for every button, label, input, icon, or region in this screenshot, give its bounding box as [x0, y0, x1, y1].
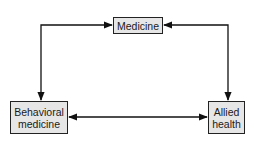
edge-medicine-allied	[164, 25, 228, 100]
node-label: Medicine	[117, 20, 159, 32]
node-label: Allied health	[212, 106, 241, 130]
node-behavioral-medicine: Behavioral medicine	[10, 101, 68, 134]
node-allied-health: Allied health	[208, 101, 245, 134]
node-medicine: Medicine	[113, 17, 163, 34]
node-label: Behavioral medicine	[14, 106, 64, 130]
edge-medicine-behavioral	[41, 25, 112, 100]
